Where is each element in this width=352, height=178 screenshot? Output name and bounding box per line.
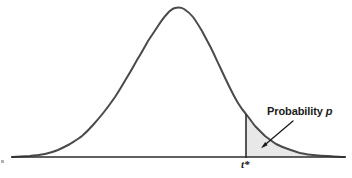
density-curve [12,8,345,157]
figure-canvas [0,0,352,178]
density-curve-figure: Probability p t* [0,0,352,178]
